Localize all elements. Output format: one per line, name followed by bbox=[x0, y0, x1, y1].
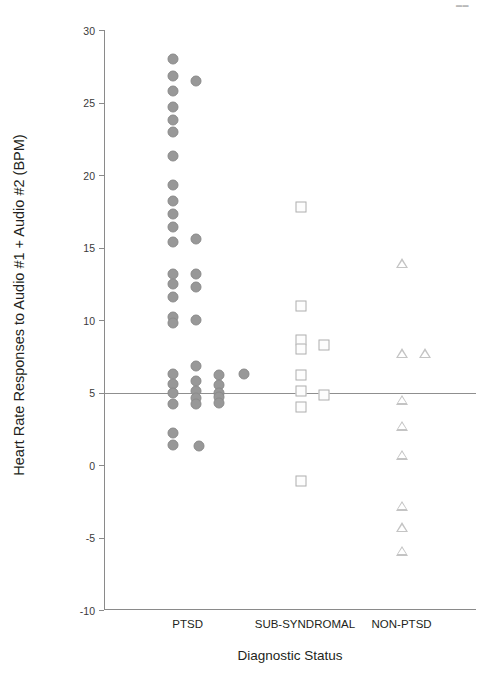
data-point-circle bbox=[167, 196, 178, 207]
data-point-circle bbox=[167, 85, 178, 96]
data-point-square bbox=[296, 475, 307, 486]
data-point-circle bbox=[167, 236, 178, 247]
data-point-circle bbox=[167, 399, 178, 410]
data-point-circle bbox=[190, 399, 201, 410]
data-point-circle bbox=[190, 315, 201, 326]
y-axis-tick-label: -10 bbox=[80, 605, 95, 617]
data-point-circle bbox=[190, 75, 201, 86]
data-point-triangle bbox=[396, 501, 408, 511]
y-axis-tick: 15 bbox=[99, 248, 104, 249]
plot-area: 302520151050-5-10 bbox=[104, 30, 476, 610]
data-point-circle bbox=[190, 233, 201, 244]
data-point-circle bbox=[167, 126, 178, 137]
data-point-triangle bbox=[396, 348, 408, 358]
y-axis-tick-label: 25 bbox=[83, 97, 95, 109]
x-axis-category-label: SUB-SYNDROMAL bbox=[255, 618, 355, 630]
data-point-circle bbox=[167, 387, 178, 398]
x-axis-title: Diagnostic Status bbox=[104, 648, 476, 663]
y-axis-tick-label: 20 bbox=[83, 170, 95, 182]
y-axis-tick-label: 0 bbox=[89, 460, 95, 472]
data-point-triangle bbox=[419, 348, 431, 358]
data-point-circle bbox=[167, 428, 178, 439]
y-axis-title: Heart Rate Responses to Audio #1 + Audio… bbox=[4, 0, 34, 610]
y-axis-tick-label: 15 bbox=[83, 242, 95, 254]
x-axis-category-label: NON-PTSD bbox=[372, 618, 432, 630]
data-point-circle bbox=[167, 291, 178, 302]
y-axis-tick-label: 30 bbox=[83, 25, 95, 37]
data-point-triangle bbox=[396, 421, 408, 431]
data-point-circle bbox=[167, 71, 178, 82]
data-point-circle bbox=[167, 151, 178, 162]
data-point-circle bbox=[167, 439, 178, 450]
data-point-circle bbox=[167, 54, 178, 65]
y-axis-tick-label: -5 bbox=[86, 532, 95, 544]
data-point-square bbox=[296, 370, 307, 381]
data-point-square bbox=[296, 402, 307, 413]
data-point-square bbox=[296, 201, 307, 212]
data-point-circle bbox=[167, 209, 178, 220]
scatter-plot-figure: ▬▬ Heart Rate Responses to Audio #1 + Au… bbox=[0, 0, 481, 677]
data-point-circle bbox=[190, 268, 201, 279]
y-axis-tick: -10 bbox=[99, 610, 104, 611]
y-axis-tick: 10 bbox=[99, 320, 104, 321]
data-point-circle bbox=[167, 317, 178, 328]
data-point-circle bbox=[167, 101, 178, 112]
data-point-triangle bbox=[396, 395, 408, 405]
data-point-circle bbox=[167, 114, 178, 125]
y-axis-tick-label: 10 bbox=[83, 315, 95, 327]
data-point-circle bbox=[190, 281, 201, 292]
data-point-square bbox=[319, 390, 330, 401]
page-corner-mark: ▬▬ bbox=[456, 2, 469, 8]
data-point-circle bbox=[238, 368, 249, 379]
data-point-circle bbox=[214, 397, 225, 408]
reference-line bbox=[104, 393, 476, 394]
data-point-triangle bbox=[396, 522, 408, 532]
x-axis-category-label: PTSD bbox=[172, 618, 203, 630]
y-axis-tick-label: 5 bbox=[89, 387, 95, 399]
data-point-square bbox=[296, 344, 307, 355]
x-axis-line bbox=[104, 609, 476, 610]
data-point-circle bbox=[190, 361, 201, 372]
y-axis-tick: 25 bbox=[99, 103, 104, 104]
y-axis-tick: 20 bbox=[99, 175, 104, 176]
data-point-triangle bbox=[396, 258, 408, 268]
data-point-circle bbox=[167, 278, 178, 289]
data-point-square bbox=[319, 339, 330, 350]
data-point-circle bbox=[193, 441, 204, 452]
y-axis-tick: 30 bbox=[99, 30, 104, 31]
data-point-triangle bbox=[396, 450, 408, 460]
data-point-circle bbox=[167, 222, 178, 233]
y-axis-tick: 0 bbox=[99, 465, 104, 466]
y-axis-tick: -5 bbox=[99, 538, 104, 539]
data-point-circle bbox=[167, 180, 178, 191]
data-point-triangle bbox=[396, 546, 408, 556]
data-point-square bbox=[296, 386, 307, 397]
y-axis-line bbox=[104, 30, 105, 610]
data-point-square bbox=[296, 300, 307, 311]
